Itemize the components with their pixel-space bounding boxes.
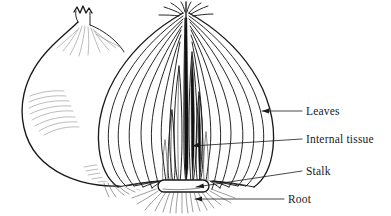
cut-onion-group [92, 2, 280, 213]
label-root: Root [288, 193, 312, 205]
whole-onion-body-striations [29, 91, 79, 135]
leader-leaves [262, 109, 302, 114]
whole-onion-neck-tip [74, 6, 92, 13]
onion-illustration: Leaves Internal tissue Stalk Root [0, 0, 391, 216]
label-leaves: Leaves [306, 105, 340, 117]
label-stalk: Stalk [306, 165, 331, 177]
whole-onion-neck-left [76, 11, 78, 22]
onion-diagram-figure: Leaves Internal tissue Stalk Root [0, 0, 391, 216]
whole-onion-skin-lines-top [57, 26, 120, 56]
label-internal-tissue: Internal tissue [306, 133, 374, 145]
